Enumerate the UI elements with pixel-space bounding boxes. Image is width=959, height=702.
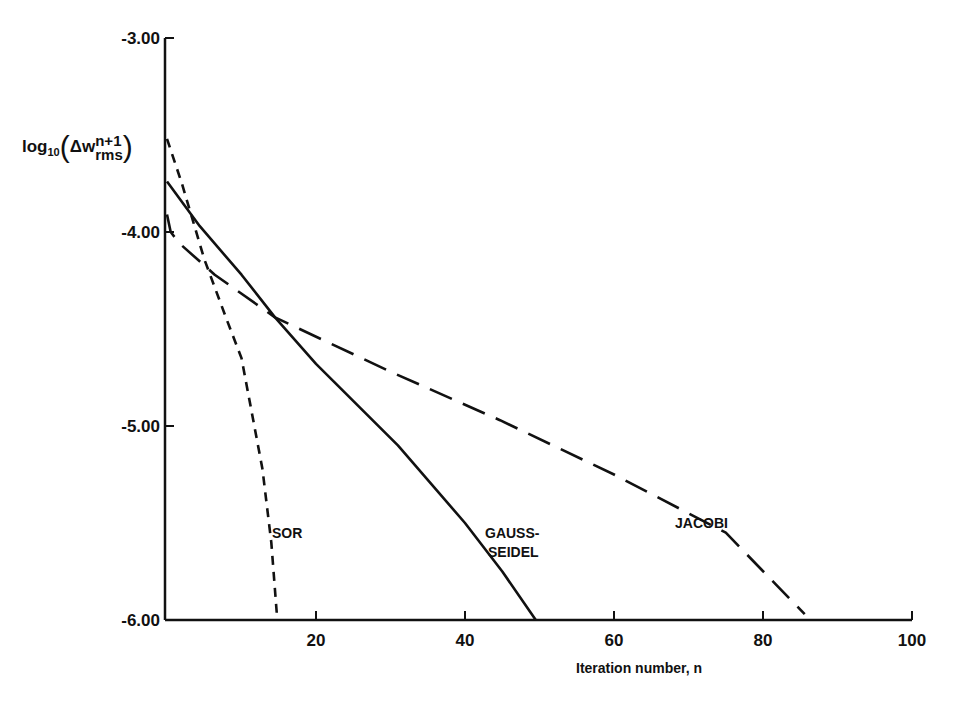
series-jacobi-line (167, 215, 805, 615)
x-axis-label: Iteration number, n (576, 660, 702, 676)
x-tick-label: 40 (456, 631, 475, 650)
axes: -3.00-4.00-5.00-6.0020406080100Iteration… (121, 29, 926, 676)
series-sor-line (167, 139, 277, 620)
x-tick-label: 100 (898, 631, 926, 650)
label-gauss-seidel: GAUSS- (485, 525, 540, 541)
label-sor: SOR (272, 525, 302, 541)
series-gauss-seidel-line (167, 182, 536, 620)
x-tick-label: 60 (605, 631, 624, 650)
y-tick-label: -5.00 (121, 417, 160, 436)
y-tick-label: -6.00 (121, 611, 160, 630)
y-tick-label: -4.00 (121, 223, 160, 242)
curve-labels: SORGAUSS-SEIDELJACOBI (272, 515, 728, 560)
y-tick-label: -3.00 (121, 29, 160, 48)
label-gauss-seidel: SEIDEL (488, 544, 539, 560)
series-group (167, 139, 805, 620)
label-jacobi: JACOBI (675, 515, 728, 531)
x-tick-label: 20 (307, 631, 326, 650)
chart-canvas: -3.00-4.00-5.00-6.0020406080100Iteration… (0, 0, 959, 702)
x-tick-label: 80 (754, 631, 773, 650)
